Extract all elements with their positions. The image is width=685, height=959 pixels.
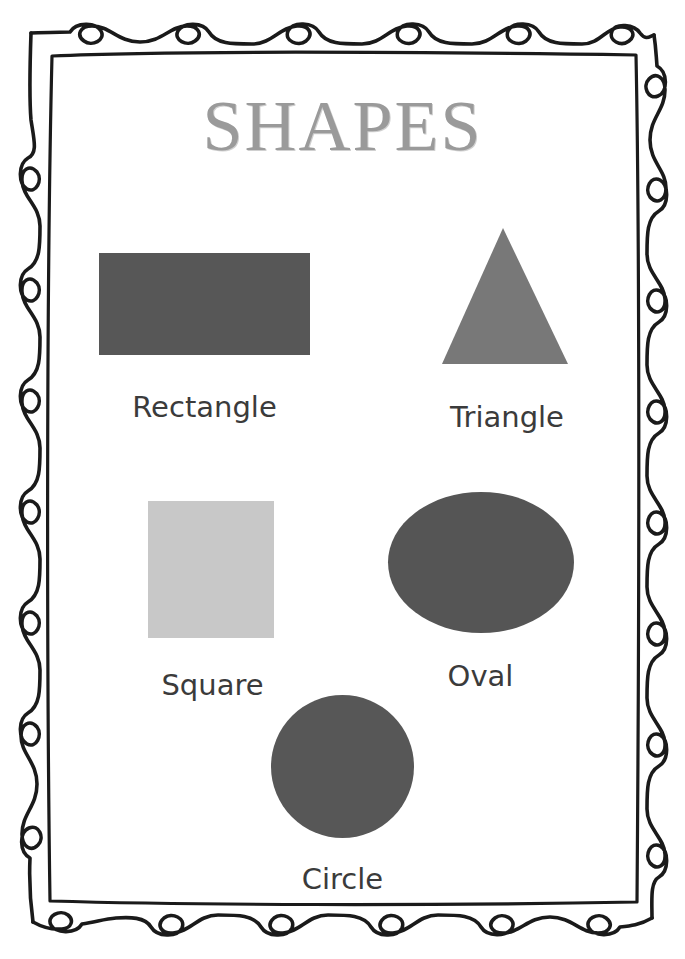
rectangle-label: Rectangle	[99, 390, 310, 424]
circle-label: Circle	[255, 862, 430, 896]
circle-fill	[271, 695, 414, 838]
triangle-label: Triangle	[432, 400, 582, 434]
shapes-poster: SHAPES Rectangle Triangle Square Oval Ci…	[0, 0, 685, 959]
oval-label: Oval	[398, 659, 563, 693]
rectangle-shape	[99, 253, 310, 355]
rectangle-fill	[99, 253, 310, 355]
triangle-svg	[440, 222, 570, 367]
triangle-shape	[440, 222, 570, 367]
circle-shape	[271, 695, 414, 838]
page-title: SHAPES	[0, 88, 685, 164]
oval-fill	[388, 492, 574, 633]
square-fill	[148, 501, 274, 638]
oval-shape	[388, 492, 574, 633]
square-shape	[148, 501, 274, 638]
